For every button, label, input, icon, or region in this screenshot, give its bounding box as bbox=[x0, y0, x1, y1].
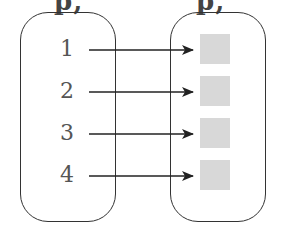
mapping-arrows bbox=[0, 0, 281, 239]
